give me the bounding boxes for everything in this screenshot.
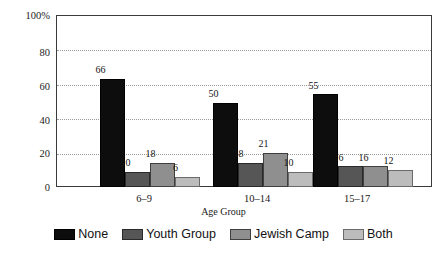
bar-youth-group-15-17 xyxy=(338,166,363,187)
chart-legend: None Youth Group Jewish Camp Both xyxy=(0,228,447,241)
value-label-youth-group-15-17: 16 xyxy=(326,153,351,163)
legend-swatch-jewish-camp-icon xyxy=(230,229,251,240)
legend-item-jewish-camp: Jewish Camp xyxy=(230,228,329,241)
legend-item-none: None xyxy=(54,228,108,241)
value-label-none-10-14: 50 xyxy=(201,89,226,99)
bar-youth-group-10-14 xyxy=(238,163,263,187)
y-axis-tick-0: 0 xyxy=(2,182,50,193)
x-axis-label-10-14: 10–14 xyxy=(219,193,295,204)
value-label-both-10-14: 10 xyxy=(276,158,301,168)
value-label-youth-group-6-9: 10 xyxy=(113,158,138,168)
legend-swatch-both-icon xyxy=(343,229,364,240)
y-axis-tick-100: 100% xyxy=(2,10,50,21)
x-axis-label-6-9: 6–9 xyxy=(106,193,182,204)
bar-both-15-17 xyxy=(388,170,413,187)
y-axis-tick-60: 60 xyxy=(2,81,50,92)
value-label-none-6-9: 66 xyxy=(88,65,113,75)
legend-item-youth-group: Youth Group xyxy=(122,228,216,241)
x-axis-label-15-17: 15–17 xyxy=(319,193,395,204)
value-label-jewish-camp-10-14: 21 xyxy=(251,139,276,149)
value-label-youth-group-10-14: 18 xyxy=(226,149,251,159)
value-label-both-15-17: 12 xyxy=(376,156,401,166)
legend-item-both: Both xyxy=(343,228,393,241)
bar-none-6-9 xyxy=(100,79,125,187)
legend-label-none: None xyxy=(78,228,108,241)
bar-chart: 100% 80 60 40 20 0 66 10 18 6 50 18 21 1… xyxy=(0,0,447,254)
bar-jewish-camp-15-17 xyxy=(363,166,388,187)
y-axis-tick-20: 20 xyxy=(2,148,50,159)
bar-none-10-14 xyxy=(213,103,238,187)
legend-swatch-none-icon xyxy=(54,229,75,240)
bar-both-10-14 xyxy=(288,172,313,188)
bar-youth-group-6-9 xyxy=(125,172,150,188)
bar-both-6-9 xyxy=(175,177,200,187)
y-axis-tick-40: 40 xyxy=(2,115,50,126)
bar-none-15-17 xyxy=(313,94,338,187)
legend-label-both: Both xyxy=(367,228,393,241)
x-axis-title: Age Group xyxy=(0,206,447,217)
value-label-both-6-9: 6 xyxy=(163,163,188,173)
legend-label-youth-group: Youth Group xyxy=(146,228,216,241)
value-label-jewish-camp-15-17: 16 xyxy=(351,153,376,163)
y-axis-tick-80: 80 xyxy=(2,47,50,58)
legend-label-jewish-camp: Jewish Camp xyxy=(254,228,329,241)
legend-swatch-youth-group-icon xyxy=(122,229,143,240)
value-label-none-15-17: 55 xyxy=(301,81,326,91)
value-label-jewish-camp-6-9: 18 xyxy=(138,149,163,159)
